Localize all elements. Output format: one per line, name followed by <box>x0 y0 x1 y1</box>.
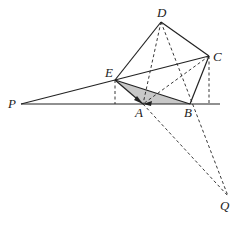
segment-dc <box>161 22 209 56</box>
label-b: B <box>184 105 192 120</box>
point-labels: P E D C A B Q <box>7 5 230 213</box>
dashed-segments <box>115 22 228 196</box>
label-c: C <box>213 49 222 64</box>
label-e: E <box>104 65 113 80</box>
label-a: A <box>134 105 143 120</box>
geometry-diagram: P E D C A B Q <box>0 0 238 225</box>
label-p: P <box>7 96 16 111</box>
label-d: D <box>156 5 167 20</box>
label-q: Q <box>220 198 230 213</box>
segment-ed <box>115 22 161 80</box>
